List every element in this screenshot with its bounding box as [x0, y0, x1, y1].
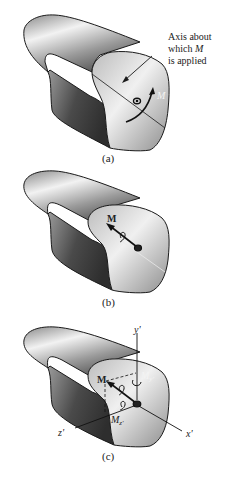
- bending-moment-diagram: M Axis about which M is applied (a) M (b…: [0, 0, 227, 483]
- axis-symbol-icon: [133, 401, 141, 407]
- axis-symbol-icon: [135, 245, 142, 251]
- annotation-line-1: Axis about: [168, 31, 212, 42]
- axis-y-prime-label: y': [133, 324, 141, 335]
- annotation-line-2: which M: [168, 43, 204, 54]
- moment-label-a: M: [156, 90, 166, 101]
- caption-a: (a): [102, 152, 115, 165]
- caption-c: (c): [102, 450, 115, 463]
- annotation-line-2-prefix: which: [168, 43, 195, 54]
- component-my-subscript: y': [148, 375, 154, 383]
- panel-b: M (b): [24, 171, 169, 309]
- annotation-line-2-symbol: M: [194, 43, 204, 54]
- annotation-line-3: is applied: [168, 55, 207, 66]
- moment-label-c: M: [97, 374, 107, 385]
- axis-symbol-dot: [136, 100, 139, 103]
- moment-label-b: M: [107, 213, 117, 224]
- panel-c: y' x' z' M My' Mz' (c): [24, 324, 194, 463]
- component-mz-subscript: z': [118, 419, 124, 427]
- panel-a: M Axis about which M is applied (a): [24, 15, 212, 165]
- axis-z-prime-label: z': [57, 427, 65, 438]
- axis-x-prime-label: x': [185, 428, 193, 439]
- caption-b: (b): [102, 296, 115, 309]
